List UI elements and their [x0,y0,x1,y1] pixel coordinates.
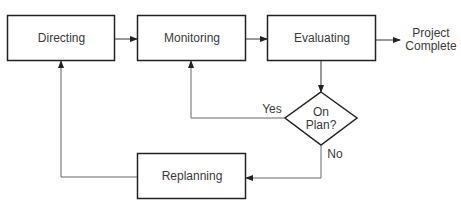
no-edge-label: No [325,148,345,161]
yes-edge-label: Yes [259,103,285,116]
project-complete-label: Project Complete [401,27,461,53]
decision-line2: Plan? [296,119,346,132]
arrow-no-to-replanning [246,145,321,178]
decision-label: On Plan? [296,106,346,132]
directing-label: Directing [8,16,115,61]
evaluating-label: Evaluating [268,16,376,61]
project-complete-line2: Complete [401,40,461,53]
monitoring-label: Monitoring [138,16,246,61]
replanning-label: Replanning [138,154,246,199]
arrow-replanning-to-directing [61,61,137,177]
